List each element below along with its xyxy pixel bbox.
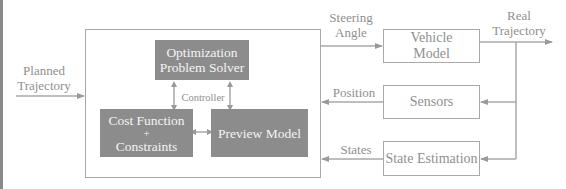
cost-line3: Constraints [116, 139, 178, 154]
real-trajectory-label: Real Trajectory [484, 8, 554, 38]
states-label: States [336, 142, 376, 157]
position-label: Position [330, 85, 378, 100]
vehicle-model-block: Vehicle Model [383, 29, 480, 63]
controller-label: Controller [178, 90, 228, 105]
optimization-solver-block: Optimization Problem Solver [155, 40, 249, 80]
vehicle-line1: Vehicle [411, 30, 453, 46]
state-estimation-block: State Estimation [383, 141, 480, 176]
planned-line1: Planned [14, 63, 74, 78]
steering-line2: Angle [326, 25, 376, 40]
planned-trajectory-label: Planned Trajectory [14, 63, 74, 93]
cost-line1: Cost Function [108, 113, 184, 128]
sensors-block: Sensors [383, 85, 480, 119]
steering-angle-label: Steering Angle [326, 10, 376, 40]
sensors-label: Sensors [410, 94, 454, 110]
vehicle-line2: Model [413, 46, 450, 62]
preview-label: Preview Model [218, 126, 301, 141]
preview-model-block: Preview Model [211, 109, 308, 157]
cost-line2: + [143, 128, 149, 139]
solver-line2: Problem Solver [160, 60, 244, 75]
solver-line1: Optimization [166, 45, 237, 60]
real-line1: Real [484, 8, 554, 23]
cost-function-block: Cost Function + Constraints [100, 109, 193, 157]
state-estimation-label: State Estimation [385, 151, 477, 167]
real-line2: Trajectory [484, 23, 554, 38]
planned-line2: Trajectory [14, 78, 74, 93]
steering-line1: Steering [326, 10, 376, 25]
